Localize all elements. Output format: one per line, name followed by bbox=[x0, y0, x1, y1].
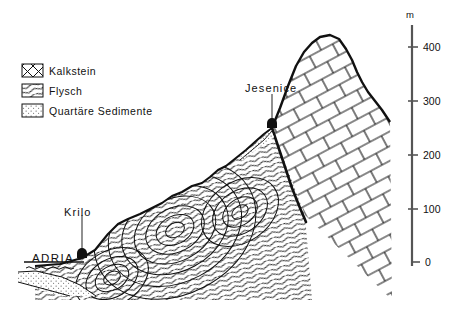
sea-label: ADRIA bbox=[32, 252, 74, 264]
axis-tick-0: 0 bbox=[412, 256, 431, 268]
legend-label-quartaere: Quartäre Sedimente bbox=[49, 105, 153, 117]
tick-label: 400 bbox=[423, 41, 441, 53]
tick-label: 100 bbox=[423, 203, 441, 215]
krilo-marker-icon bbox=[77, 248, 87, 258]
legend-item-flysch: Flysch bbox=[22, 84, 82, 97]
locality-label-jesenice: Jesenice bbox=[245, 82, 297, 94]
locality-label-krilo: Krilo bbox=[64, 206, 92, 218]
tick-label: 0 bbox=[425, 256, 431, 268]
legend-item-quartaere: Quartäre Sedimente bbox=[22, 104, 153, 117]
legend-swatch-quartaere bbox=[22, 104, 43, 117]
marker-krilo[interactable] bbox=[77, 215, 87, 258]
marker-jesenice[interactable] bbox=[267, 94, 277, 128]
legend-label-flysch: Flysch bbox=[49, 85, 82, 97]
elevation-axis: m 400 300 200 100 0 bbox=[406, 9, 441, 268]
legend-label-kalkstein: Kalkstein bbox=[49, 65, 96, 77]
axis-unit-label: m bbox=[406, 9, 414, 20]
legend-swatch-kalkstein bbox=[22, 64, 43, 77]
cross-section-figure: ADRIA Krilo Jesenice m 400 300 200 100 bbox=[0, 0, 451, 333]
tick-label: 300 bbox=[423, 95, 441, 107]
tick-label: 200 bbox=[423, 149, 441, 161]
legend: Kalkstein Flysch Quartäre Sedimente bbox=[22, 64, 153, 117]
figure-canvas: ADRIA Krilo Jesenice m 400 300 200 100 bbox=[0, 0, 451, 333]
jesenice-marker-icon bbox=[267, 118, 277, 128]
legend-item-kalkstein: Kalkstein bbox=[22, 64, 96, 77]
legend-swatch-flysch bbox=[22, 84, 43, 97]
